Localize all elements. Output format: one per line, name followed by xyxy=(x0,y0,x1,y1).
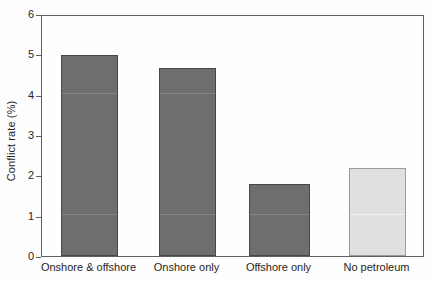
bar-scanline xyxy=(62,214,117,215)
y-tick-label: 5 xyxy=(6,49,34,60)
plot-frame xyxy=(41,15,424,257)
bar-2 xyxy=(249,184,310,256)
bar-scanline xyxy=(160,93,215,94)
bar-3 xyxy=(349,168,406,256)
y-tick-label: 1 xyxy=(6,211,34,222)
bar-chart: Conflict rate (%) 0123456 Onshore & offs… xyxy=(0,0,433,282)
y-tick-label: 6 xyxy=(6,9,34,20)
bar-1 xyxy=(159,68,216,256)
y-tick-mark xyxy=(36,257,41,258)
bar-scanline xyxy=(350,214,405,215)
plot-area xyxy=(42,16,423,256)
y-tick-label: 0 xyxy=(6,251,34,262)
bar-0 xyxy=(61,55,118,256)
bar-scanline xyxy=(62,93,117,94)
x-category-label-3: No petroleum xyxy=(307,262,433,273)
bar-scanline xyxy=(250,214,309,215)
y-tick-label: 4 xyxy=(6,90,34,101)
y-tick-label: 3 xyxy=(6,130,34,141)
y-tick-label: 2 xyxy=(6,170,34,181)
bar-scanline xyxy=(160,214,215,215)
y-axis-title: Conflict rate (%) xyxy=(0,0,22,282)
